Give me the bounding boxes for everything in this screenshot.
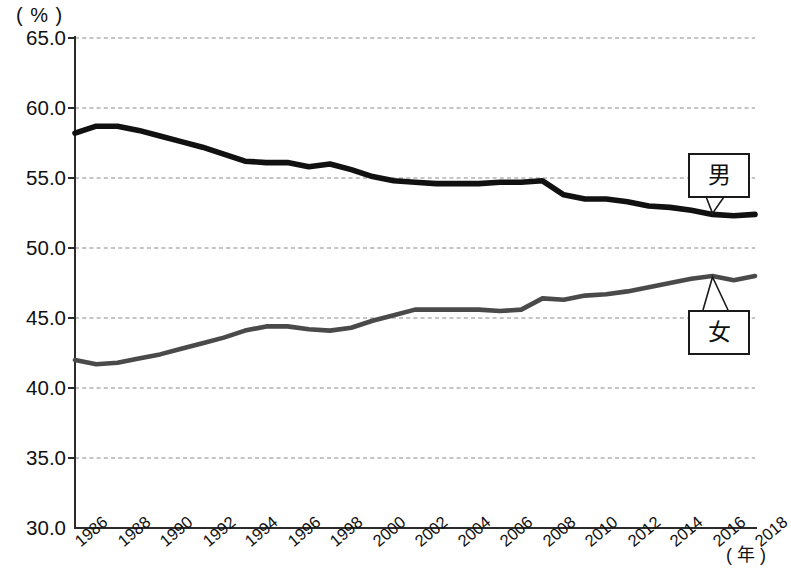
x-axis-tick-2006: 2006 [496,512,536,550]
x-axis-tick-1988: 1988 [114,512,154,550]
x-axis-tick-1990: 1990 [156,512,196,550]
x-axis-tick-1992: 1992 [199,512,239,550]
x-axis-tick-2012: 2012 [624,512,664,550]
x-axis-tick-2010: 2010 [581,512,621,550]
x-axis-unit-label: ( 年 ) [726,540,766,566]
callout-label-male: 男 [688,153,750,198]
callout-label-female: 女 [688,310,750,355]
x-axis-tick-2014: 2014 [666,512,706,550]
x-axis-tick-2000: 2000 [369,512,409,550]
x-axis-tick-1994: 1994 [241,512,281,550]
x-axis-tick-1986: 1986 [71,512,111,550]
x-axis-tick-1998: 1998 [326,512,366,550]
x-axis-tick-2008: 2008 [539,512,579,550]
callout-male-text: 男 [708,164,731,187]
x-axis-tick-1996: 1996 [284,512,324,550]
x-axis-tick-2004: 2004 [454,512,494,550]
callout-female-text: 女 [708,321,731,344]
x-axis-tick-2002: 2002 [411,512,451,550]
